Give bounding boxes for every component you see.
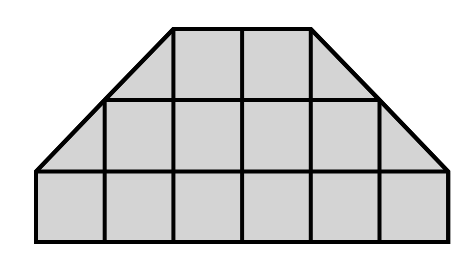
trapezoid-grid-figure	[0, 0, 474, 254]
figure-container	[0, 0, 474, 254]
